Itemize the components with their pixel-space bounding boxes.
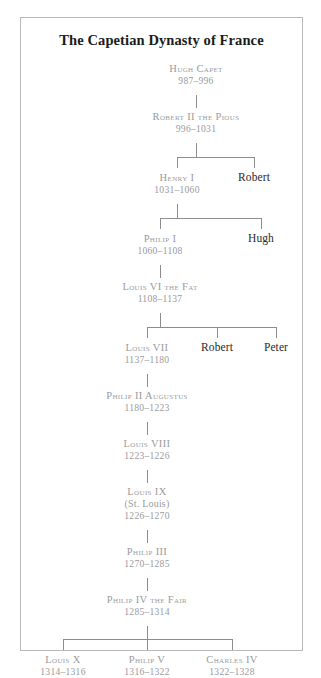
connector-drop-louisx	[63, 639, 64, 650]
node-name: Philip III	[87, 546, 207, 558]
node-dates: 1137–1180	[87, 354, 207, 365]
node-name: Robert	[214, 171, 294, 185]
connector-drop-louisvii	[147, 327, 148, 338]
node-name: Louis VI the Fat	[85, 281, 235, 293]
connector-henryi-bar	[160, 218, 262, 219]
node-robert-brother-of-henry-i: Robert	[214, 171, 294, 185]
connector-philipi-louisvi	[160, 265, 161, 278]
node-dates: 1322–1328	[187, 666, 277, 677]
connector-louisvii-philipii	[147, 374, 148, 387]
node-name: Philip I	[100, 233, 220, 245]
node-name: Philip V	[105, 654, 189, 666]
node-philip-iv: Philip IV the Fair 1285–1314	[72, 594, 222, 618]
connector-drop-philipv	[147, 639, 148, 650]
node-peter-brother-of-louis-vii: Peter	[238, 341, 314, 355]
node-name: Louis X	[21, 654, 105, 666]
connector-robertii-bar	[177, 157, 255, 158]
node-name: Louis IX	[87, 486, 207, 498]
node-name: Robert II the Pious	[116, 111, 276, 123]
connector-drop-charlesiv	[232, 639, 233, 650]
node-dates: 1108–1137	[85, 293, 235, 304]
node-dates: 1223–1226	[87, 450, 207, 461]
node-dates: 1031–1060	[117, 184, 237, 195]
node-subtitle: (St. Louis)	[87, 498, 207, 510]
connector-drop-hugh	[261, 218, 262, 229]
connector-robertii-down	[196, 143, 197, 157]
node-philip-ii-augustus: Philip II Augustus 1180–1223	[67, 390, 227, 414]
node-robert-ii: Robert II the Pious 996–1031	[116, 111, 276, 135]
connector-drop-philipi	[160, 218, 161, 229]
genealogy-chart-frame: The Capetian Dynasty of France Hugh Cape…	[20, 17, 303, 651]
node-dates: 1285–1314	[72, 606, 222, 617]
node-louis-vi: Louis VI the Fat 1108–1137	[85, 281, 235, 305]
connector-louisvi-down	[160, 313, 161, 327]
node-hugh-capet: Hugh Capet 987–996	[126, 63, 266, 87]
node-dates: 1060–1108	[100, 245, 220, 256]
connector-hughcapet-robertii	[196, 95, 197, 108]
node-name: Hugh Capet	[126, 63, 266, 75]
node-dates: 1316–1322	[105, 666, 189, 677]
connector-louisvi-bar	[147, 327, 277, 328]
connector-henryi-down	[177, 204, 178, 218]
node-philip-iii: Philip III 1270–1285	[87, 546, 207, 570]
node-name: Hugh	[221, 232, 301, 246]
node-louis-x: Louis X 1314–1316	[21, 654, 105, 678]
node-louis-ix: Louis IX (St. Louis) 1226–1270	[87, 486, 207, 521]
node-dates: 1314–1316	[21, 666, 105, 677]
node-name: Louis VIII	[87, 438, 207, 450]
connector-drop-robert-b2	[217, 327, 218, 338]
node-philip-i: Philip I 1060–1108	[100, 233, 220, 257]
node-dates: 987–996	[126, 75, 266, 86]
node-dates: 1226–1270	[87, 510, 207, 521]
node-louis-viii: Louis VIII 1223–1226	[87, 438, 207, 462]
connector-drop-peter	[276, 327, 277, 338]
node-dates: 1270–1285	[87, 558, 207, 569]
connector-philipiv-down	[147, 626, 148, 639]
connector-louisviii-louisix	[147, 470, 148, 483]
node-name: Philip IV the Fair	[72, 594, 222, 606]
page-title: The Capetian Dynasty of France	[21, 32, 302, 49]
connector-philipii-louisviii	[147, 422, 148, 435]
node-dates: 1180–1223	[67, 402, 227, 413]
connector-drop-henryi	[177, 157, 178, 168]
connector-philipiii-philipiv	[147, 578, 148, 591]
node-dates: 996–1031	[116, 123, 276, 134]
node-name: Peter	[238, 341, 314, 355]
connector-louisix-philipiii	[147, 530, 148, 543]
node-philip-v: Philip V 1316–1322	[105, 654, 189, 678]
node-charles-iv: Charles IV 1322–1328	[187, 654, 277, 678]
node-name: Philip II Augustus	[67, 390, 227, 402]
node-name: Charles IV	[187, 654, 277, 666]
node-hugh-brother-of-philip-i: Hugh	[221, 232, 301, 246]
connector-drop-robert-b1	[254, 157, 255, 168]
